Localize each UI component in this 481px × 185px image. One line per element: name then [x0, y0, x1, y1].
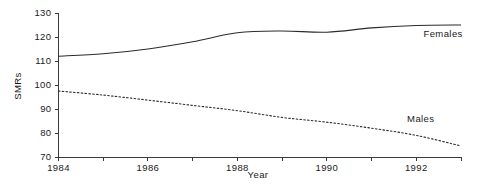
y-tick-label: 100 — [34, 79, 51, 90]
y-axis-group: 708090100110120130 SMRs — [12, 7, 59, 162]
data-series-group — [59, 25, 462, 146]
x-tick-label: 1990 — [315, 162, 338, 173]
x-axis-title: Year — [248, 169, 269, 180]
x-tick-label: 1988 — [226, 162, 249, 173]
y-tick-label: 110 — [35, 55, 51, 66]
x-axis-tick-labels: 19841986198819901992 — [47, 162, 428, 173]
series-label-males: Males — [407, 113, 434, 124]
y-axis-tick-labels: 708090100110120130 — [34, 7, 51, 162]
y-tick-label: 120 — [34, 31, 51, 42]
x-tick-label: 1984 — [47, 162, 70, 173]
y-axis-title: SMRs — [12, 72, 23, 99]
series-label-females: Females — [423, 28, 462, 39]
line-chart-canvas: 708090100110120130 SMRs 1984198619881990… — [0, 0, 481, 185]
series-line-males — [59, 91, 462, 146]
y-tick-label: 90 — [40, 103, 51, 114]
x-tick-label: 1986 — [137, 162, 160, 173]
y-tick-label: 130 — [34, 7, 51, 18]
x-axis-group: 19841986198819901992 Year — [47, 157, 461, 180]
y-tick-label: 80 — [40, 127, 51, 138]
series-line-females — [59, 25, 462, 56]
chart-figure: 708090100110120130 SMRs 1984198619881990… — [0, 0, 481, 185]
y-axis-ticks — [55, 13, 59, 157]
x-tick-label: 1992 — [405, 162, 428, 173]
series-annotation-labels: FemalesMales — [407, 28, 463, 124]
